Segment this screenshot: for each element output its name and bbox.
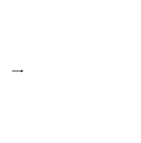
magnetic-field-diagram <box>0 0 141 143</box>
vector-arrowhead-icon <box>21 70 24 73</box>
